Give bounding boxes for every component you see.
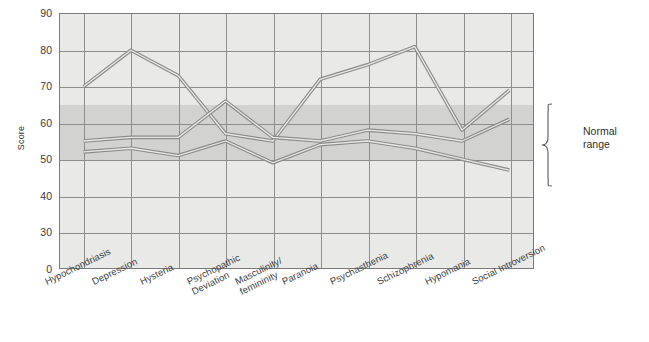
y-tick-label: 70 — [26, 81, 52, 91]
y-tick-label: 0 — [26, 264, 52, 274]
y-axis-tick-labels: 908070605040300 — [10, 0, 52, 342]
mmpi-profile-chart: Score 908070605040300 HypochondriasisDep… — [0, 0, 649, 342]
y-tick-label: 60 — [26, 118, 52, 128]
series-lines — [60, 14, 533, 268]
normal-range-label: Normal range — [583, 125, 617, 151]
plot-area — [59, 13, 534, 269]
y-tick-label: 30 — [26, 227, 52, 237]
y-tick-label: 40 — [26, 191, 52, 201]
normal-range-annotation: Normal range — [541, 103, 645, 187]
series-line-core — [84, 101, 510, 141]
series-line-outline — [84, 101, 510, 141]
y-tick-label: 90 — [26, 8, 52, 18]
y-tick-label: 80 — [26, 45, 52, 55]
series-line-outline — [84, 47, 510, 141]
curly-bracket-icon — [541, 103, 555, 187]
y-tick-label: 50 — [26, 154, 52, 164]
